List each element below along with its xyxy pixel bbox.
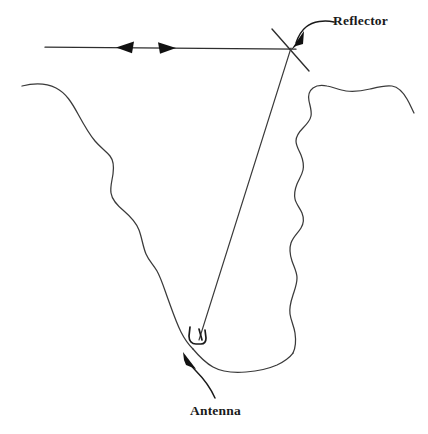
antenna-label: Antenna — [190, 403, 241, 418]
diagram-canvas: Reflector Antenna — [0, 0, 428, 434]
antenna-reflector-diagram: Reflector Antenna — [0, 0, 428, 434]
reflector-label: Reflector — [333, 13, 388, 28]
canvas-background — [0, 0, 428, 434]
